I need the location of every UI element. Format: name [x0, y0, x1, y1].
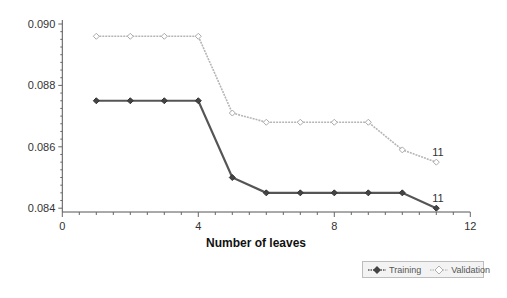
y-tick-label: 0.088	[28, 79, 56, 91]
data-point-diamond	[127, 33, 133, 39]
x-tick-label: 12	[464, 220, 476, 232]
legend: Training Validation	[362, 261, 484, 278]
y-tick-label: 0.086	[28, 141, 56, 153]
data-point-diamond	[297, 190, 303, 196]
series-line	[96, 36, 436, 162]
validation-diamond-icon	[430, 265, 448, 275]
data-point-diamond	[127, 98, 133, 104]
series-validation: 11	[93, 33, 443, 165]
series-end-label: 11	[432, 146, 443, 158]
y-tick-label: 0.084	[28, 202, 56, 214]
training-diamond-icon	[368, 265, 386, 275]
y-axis: 0.0840.0860.0880.090	[28, 18, 63, 214]
x-tick-label: 4	[195, 220, 201, 232]
x-axis-title: Number of leaves	[206, 236, 306, 250]
legend-item-validation[interactable]: Validation	[430, 265, 490, 275]
data-point-diamond	[229, 110, 235, 116]
data-point-diamond	[297, 119, 303, 125]
y-tick-label: 0.090	[28, 18, 56, 30]
legend-label-validation: Validation	[451, 265, 490, 275]
x-tick-label: 8	[331, 220, 337, 232]
data-point-diamond	[93, 33, 99, 39]
data-point-diamond	[93, 98, 99, 104]
data-point-diamond	[331, 190, 337, 196]
series-end-label: 11	[432, 192, 443, 204]
x-tick-label: 0	[59, 220, 65, 232]
data-point-diamond	[365, 119, 371, 125]
data-point-diamond	[161, 33, 167, 39]
data-point-diamond	[433, 159, 439, 165]
series-layer: 1111	[93, 33, 443, 211]
legend-item-training[interactable]: Training	[368, 265, 421, 275]
series-training: 11	[93, 98, 443, 211]
data-point-diamond	[195, 33, 201, 39]
x-axis: 04812	[59, 212, 476, 232]
data-point-diamond	[331, 119, 337, 125]
data-point-diamond	[365, 190, 371, 196]
data-point-diamond	[161, 98, 167, 104]
legend-label-training: Training	[389, 265, 421, 275]
data-point-diamond	[263, 119, 269, 125]
line-chart: 0.0840.0860.0880.090 04812 1111 Number o…	[0, 0, 507, 298]
